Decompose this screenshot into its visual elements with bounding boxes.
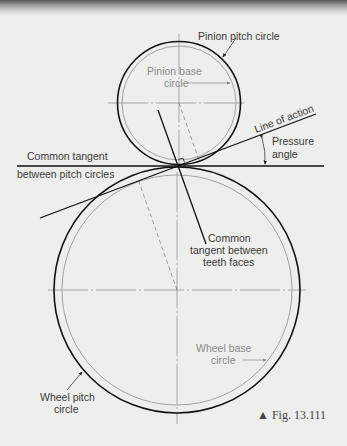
wheel-pitch-leader (67, 372, 82, 390)
teeth-tangent-label-2: tangent between (190, 244, 268, 256)
teeth-tangent-label-3: teeth faces (203, 256, 254, 268)
pinion-radius-dashed (179, 103, 199, 160)
pinion-pitch-circle-label: Pinion pitch circle (198, 30, 280, 42)
pinion-base-circle-label-2: circle (164, 77, 189, 89)
common-tangent-label-1: Common tangent (27, 150, 108, 162)
wheel-base-circle-label-1: Wheel base (196, 342, 252, 354)
wheel-centerlines (48, 172, 306, 424)
figure-caption: ▲ Fig. 13.111 (257, 408, 326, 422)
gear-diagram: Pinion pitch circle Pinion base circle L… (0, 0, 347, 446)
pressure-angle-arc (262, 138, 265, 164)
wheel-pitch-circle-label-2: circle (54, 403, 79, 415)
pinion-base-circle-label-1: Pinion base (147, 65, 202, 77)
teeth-tangent-label-1: Common (208, 232, 251, 244)
wheel-base-circle-label-2: circle (211, 354, 236, 366)
pressure-angle-label-1: Pressure (272, 135, 314, 147)
wheel-radius-dashed (139, 182, 177, 290)
common-tangent-label-2: between pitch circles (17, 168, 114, 180)
wheel-pitch-circle-label-1: Wheel pitch (40, 391, 95, 403)
pressure-angle-label-2: angle (272, 148, 298, 160)
